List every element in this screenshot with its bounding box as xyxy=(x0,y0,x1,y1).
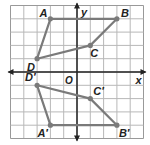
vertex-label-C-prime: C′ xyxy=(93,85,105,97)
vertex-label-A: A xyxy=(38,7,47,19)
coordinate-plane: yxOABCDA′B′C′D′ xyxy=(0,0,150,145)
vertex-point xyxy=(88,96,93,101)
vertex-point xyxy=(48,16,53,21)
vertex-label-B-prime: B′ xyxy=(119,127,131,139)
vertex-label-A-prime: A′ xyxy=(36,127,49,139)
x-axis-label: x xyxy=(135,74,143,86)
vertex-label-D-prime: D′ xyxy=(25,71,37,83)
vertex-label-C: C xyxy=(90,47,99,59)
vertex-point xyxy=(35,83,40,88)
vertex-point xyxy=(114,16,119,21)
origin-label: O xyxy=(65,75,73,86)
vertex-point xyxy=(48,123,53,128)
y-axis-label: y xyxy=(80,6,88,18)
vertex-label-B: B xyxy=(121,7,129,19)
vertex-point xyxy=(35,56,40,61)
